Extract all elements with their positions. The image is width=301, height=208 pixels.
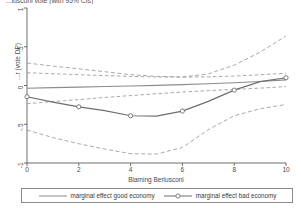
x-axis-title: Blaming Berlusconi bbox=[27, 176, 285, 183]
x-tick-label: 6 bbox=[172, 166, 192, 173]
y-tick-label: -.5 bbox=[17, 124, 24, 138]
x-tick-label: 10 bbox=[276, 166, 296, 173]
chart-figure: ...lusconi vote (with 95% CIs) 1 .5 0 -.… bbox=[0, 0, 301, 208]
x-tick-label: 2 bbox=[69, 166, 89, 173]
legend-item-good-economy: marginal effect good economy bbox=[38, 192, 155, 200]
legend-line-swatch-circle bbox=[163, 192, 193, 200]
x-tick-label: 0 bbox=[17, 166, 37, 173]
x-tick-label: 8 bbox=[224, 166, 244, 173]
x-tick-marks bbox=[27, 163, 286, 166]
legend-label-good-economy: marginal effect good economy bbox=[71, 192, 155, 199]
series-line-good-economy bbox=[27, 80, 286, 88]
chart-legend: marginal effect good economy marginal ef… bbox=[21, 188, 293, 203]
y-tick-marks bbox=[24, 8, 27, 163]
series-line-bad-economy bbox=[27, 78, 286, 116]
ci-band-bad-economy bbox=[27, 36, 286, 154]
legend-label-bad-economy: marginal effect bad economy bbox=[196, 192, 277, 199]
y-axis-title: ...r (vote DP) bbox=[14, 17, 21, 107]
legend-line-swatch-solid bbox=[38, 192, 68, 200]
x-tick-label: 4 bbox=[121, 166, 141, 173]
legend-item-bad-economy: marginal effect bad economy bbox=[163, 192, 277, 200]
ci-band-good-economy bbox=[27, 73, 286, 104]
